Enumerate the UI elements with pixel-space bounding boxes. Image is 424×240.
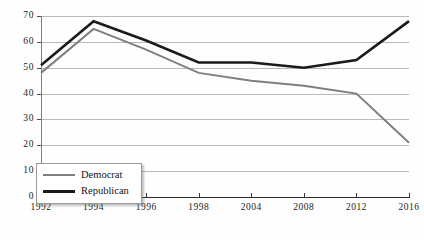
legend-label-republican: Republican [81, 186, 129, 197]
chart-legend: Democrat Republican [36, 163, 142, 204]
legend-label-democrat: Democrat [81, 170, 122, 181]
legend-item-republican: Republican [43, 183, 129, 199]
legend-item-democrat: Democrat [43, 167, 122, 183]
series-layer [0, 0, 424, 240]
legend-swatch-democrat [43, 174, 75, 176]
series-line-democrat [41, 29, 409, 143]
line-chart: 010203040506070 199219941996199820042008… [0, 0, 424, 240]
series-line-republican [41, 21, 409, 68]
legend-swatch-republican [43, 190, 75, 193]
